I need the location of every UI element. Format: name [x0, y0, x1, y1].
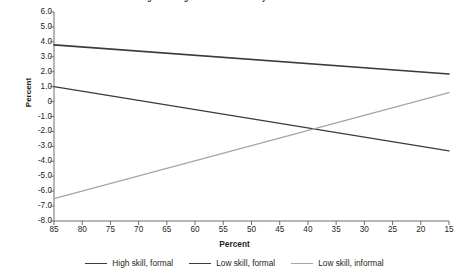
x-axis-tick-labels: 858075706560555045403530252015	[54, 225, 449, 237]
y-tick-label: -7.0	[18, 202, 52, 210]
x-tick-label: 50	[239, 225, 265, 235]
x-tick-label: 80	[69, 225, 95, 235]
y-tick-label: -3.0	[18, 142, 52, 150]
y-tick-label: 4.0	[18, 38, 52, 46]
x-tick-label: 75	[97, 225, 123, 235]
x-axis-label: Percent	[0, 239, 469, 249]
chart-container: Figure 3. Degree of Substitutability bet…	[0, 0, 469, 280]
chart-legend: High skill, formalLow skill, formalLow s…	[0, 258, 469, 268]
y-tick-label: -2.0	[18, 127, 52, 135]
series-line	[54, 87, 449, 151]
y-tick-label: -8.0	[18, 217, 52, 225]
y-axis-tick-labels: 6.05.04.03.02.01.00-1.0-2.0-3.0-4.0-5.0-…	[14, 12, 52, 221]
data-series-group	[54, 45, 449, 199]
y-tick-label: 6.0	[18, 8, 52, 16]
y-tick-label: 5.0	[18, 23, 52, 31]
plot-area	[54, 12, 449, 221]
axis-lines	[54, 12, 449, 221]
legend-label: Low skill, informal	[318, 258, 383, 268]
legend-color-swatch	[189, 263, 211, 264]
x-tick-label: 25	[380, 225, 406, 235]
legend-label: Low skill, formal	[216, 258, 275, 268]
legend-item[interactable]: Low skill, formal	[189, 258, 275, 268]
x-tick-label: 30	[351, 225, 377, 235]
series-line	[54, 93, 449, 199]
chart-title: Figure 3. Degree of Substitutability bet…	[0, 0, 469, 3]
x-tick-label: 45	[267, 225, 293, 235]
legend-color-swatch	[291, 263, 313, 264]
series-line	[54, 45, 449, 74]
x-tick-label: 40	[295, 225, 321, 235]
y-tick-label: -5.0	[18, 172, 52, 180]
legend-label: High skill, formal	[112, 258, 173, 268]
y-tick-label: 3.0	[18, 53, 52, 61]
legend-color-swatch	[85, 263, 107, 264]
x-tick-label: 60	[182, 225, 208, 235]
x-tick-label: 15	[436, 225, 462, 235]
x-tick-label: 35	[323, 225, 349, 235]
x-tick-label: 20	[408, 225, 434, 235]
legend-item[interactable]: Low skill, informal	[291, 258, 383, 268]
y-tick-label: -4.0	[18, 157, 52, 165]
y-tick-label: -6.0	[18, 187, 52, 195]
y-tick-label: 1.0	[18, 83, 52, 91]
x-tick-label: 85	[41, 225, 67, 235]
y-tick-label: -1.0	[18, 113, 52, 121]
y-tick-label: 2.0	[18, 68, 52, 76]
x-tick-label: 65	[154, 225, 180, 235]
y-tick-label: 0	[18, 98, 52, 106]
plot-svg	[54, 12, 449, 221]
x-tick-label: 70	[126, 225, 152, 235]
legend-item[interactable]: High skill, formal	[85, 258, 173, 268]
x-tick-label: 55	[210, 225, 236, 235]
